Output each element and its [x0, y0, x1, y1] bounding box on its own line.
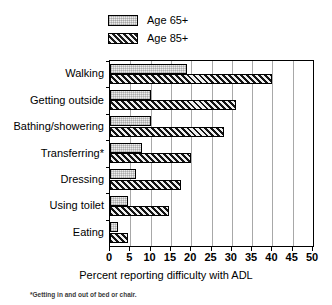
- bar-age-85-: [110, 180, 181, 190]
- x-axis: 05101520253035404550: [109, 246, 313, 264]
- bar-age-85-: [110, 153, 191, 163]
- category-tick: [106, 193, 110, 194]
- bar-age-85-: [110, 100, 236, 110]
- bar-age-65-: [110, 90, 151, 100]
- category-label: Transferring*: [41, 147, 104, 159]
- x-axis-title: Percent reporting difficulty with ADL: [0, 269, 332, 282]
- category-label: Walking: [65, 67, 104, 79]
- category-tick: [106, 114, 110, 115]
- category-tick: [106, 140, 110, 141]
- category-label: Eating: [73, 226, 104, 238]
- x-axis-tick-label: 30: [225, 251, 237, 263]
- x-axis-tick-label: 20: [184, 251, 196, 263]
- gridline: [252, 61, 253, 246]
- category-tick: [106, 220, 110, 221]
- bar-age-65-: [110, 169, 136, 179]
- x-axis-tick-label: 10: [143, 251, 155, 263]
- category-label: Dressing: [61, 173, 104, 185]
- chart-legend: Age 65+ Age 85+: [108, 13, 238, 49]
- chart-plot-wrapper: WalkingGetting outsideBathing/showeringT…: [0, 60, 332, 245]
- gridline: [272, 61, 273, 246]
- gridline: [191, 61, 192, 246]
- x-axis-tick-label: 15: [164, 251, 176, 263]
- category-tick: [106, 167, 110, 168]
- x-axis-tick-label: 50: [306, 251, 318, 263]
- x-axis-tick-label: 5: [126, 251, 132, 263]
- bar-age-65-: [110, 64, 187, 74]
- category-label: Using toilet: [50, 199, 104, 211]
- x-axis-tick-label: 35: [245, 251, 257, 263]
- category-axis: WalkingGetting outsideBathing/showeringT…: [0, 60, 109, 245]
- chart-footnote: *Getting in and out of bed or chair.: [30, 291, 137, 299]
- legend-swatch-age-85-icon: [108, 33, 138, 44]
- bar-age-85-: [110, 127, 224, 137]
- x-axis-tick-label: 25: [204, 251, 216, 263]
- bar-age-65-: [110, 143, 142, 153]
- category-tick: [106, 61, 110, 62]
- bar-age-65-: [110, 196, 128, 206]
- x-axis-tick-label: 45: [286, 251, 298, 263]
- plot-area: [109, 60, 314, 247]
- bar-age-65-: [110, 116, 151, 126]
- legend-item-age-65: Age 65+: [108, 13, 238, 28]
- legend-item-age-85: Age 85+: [108, 31, 238, 46]
- legend-label-age-65: Age 65+: [147, 15, 188, 26]
- bar-age-85-: [110, 74, 272, 84]
- gridline: [212, 61, 213, 246]
- category-tick: [106, 87, 110, 88]
- legend-swatch-age-65-icon: [108, 15, 138, 26]
- gridline: [293, 61, 294, 246]
- category-label: Bathing/showering: [13, 120, 104, 132]
- gridline: [232, 61, 233, 246]
- legend-label-age-85: Age 85+: [147, 33, 188, 44]
- category-label: Getting outside: [30, 94, 104, 106]
- bar-age-65-: [110, 222, 118, 232]
- x-axis-tick-label: 40: [265, 251, 277, 263]
- bar-age-85-: [110, 233, 128, 243]
- x-axis-tick-label: 0: [106, 251, 112, 263]
- bar-age-85-: [110, 206, 169, 216]
